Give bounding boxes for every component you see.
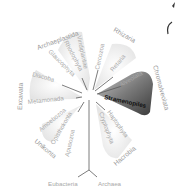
- branch-archaea: [89, 170, 97, 177]
- label-excavata: Excavata: [16, 82, 24, 110]
- label-archaea: Archaea: [98, 180, 122, 187]
- tree-diagram: Viridiplantae Rhodophyta Glaucophyta Cer…: [0, 0, 178, 196]
- label-chromalveolata: Chromalveolata: [152, 64, 171, 111]
- label-apusozoa: Apusozoa: [63, 128, 76, 157]
- label-eubacteria: Eubacteria: [48, 180, 78, 187]
- branch-eubacteria: [78, 170, 89, 177]
- stray-mark-top: [172, 2, 175, 8]
- stray-mark-curve: [168, 22, 173, 34]
- label-rhizaria: Rhizaria: [113, 26, 138, 44]
